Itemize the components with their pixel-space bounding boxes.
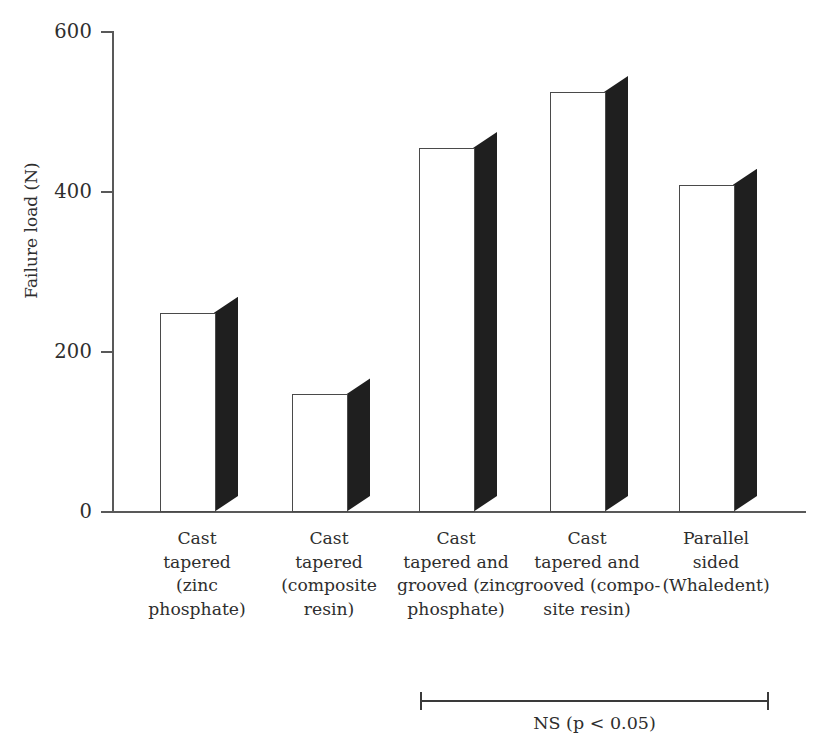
x-axis-category-label: Casttapered andgrooved (zincphosphate)	[381, 527, 531, 621]
x-axis-category-label-line: (Whaledent)	[641, 574, 791, 598]
x-axis-category-label-line: Cast	[512, 527, 662, 551]
y-axis-tick-label: 600	[34, 22, 92, 42]
x-axis-category-label-line: grooved (zinc	[381, 574, 531, 598]
y-axis-tick-label: 200	[34, 342, 92, 362]
x-axis-category-label-line: (zinc	[122, 574, 272, 598]
y-axis-line	[112, 31, 114, 513]
bar-side-panel	[604, 76, 628, 512]
bar-chart-figure: Failure load (N) 0200400600 Casttapered(…	[0, 0, 822, 745]
bar-group	[679, 0, 757, 512]
x-axis-category-label-line: sided	[641, 551, 791, 575]
x-axis-category-label-line: phosphate)	[381, 598, 531, 622]
x-axis-category-label-line: Cast	[122, 527, 272, 551]
x-axis-category-label-line: tapered and	[512, 551, 662, 575]
bar-side-panel	[733, 169, 757, 512]
x-axis-category-label-line: tapered and	[381, 551, 531, 575]
significance-label: NS (p < 0.05)	[420, 715, 769, 733]
bar-group	[550, 0, 628, 512]
significance-bracket-cap-left	[420, 692, 422, 710]
y-axis-tick-label-wrap: 600	[30, 22, 92, 42]
bar-face	[160, 313, 216, 512]
y-axis-tick-label: 0	[34, 502, 92, 522]
y-axis-tick	[101, 31, 113, 33]
x-axis-category-label-line: grooved (compo-	[512, 574, 662, 598]
x-axis-category-label: Parallelsided(Whaledent)	[641, 527, 791, 598]
x-axis-category-label-line: tapered	[122, 551, 272, 575]
significance-bracket	[420, 691, 769, 711]
y-axis-tick-label: 400	[34, 182, 92, 202]
x-axis-category-label-line: Parallel	[641, 527, 791, 551]
y-axis-tick	[101, 511, 113, 513]
bar-group	[419, 0, 497, 512]
x-axis-category-label-line: Cast	[381, 527, 531, 551]
significance-bracket-line	[420, 700, 769, 702]
bar-face	[419, 148, 475, 512]
y-axis-tick-label-wrap: 400	[30, 182, 92, 202]
bar-side-panel	[346, 378, 370, 512]
bar-side-panel	[473, 132, 497, 512]
bar-face	[679, 185, 735, 512]
x-axis-category-label: Casttapered andgrooved (compo-site resin…	[512, 527, 662, 621]
bar-side-panel	[214, 297, 238, 512]
x-axis-category-label-line: phosphate)	[122, 598, 272, 622]
bar-group	[160, 0, 238, 512]
bar-face	[292, 394, 348, 512]
y-axis-tick-label-wrap: 0	[30, 502, 92, 522]
x-axis-category-label-line: site resin)	[512, 598, 662, 622]
bar-group	[292, 0, 370, 512]
y-axis-tick	[101, 191, 113, 193]
y-axis-tick-label-wrap: 200	[30, 342, 92, 362]
y-axis-title: Failure load (N)	[23, 151, 40, 311]
significance-bracket-cap-right	[767, 692, 769, 710]
y-axis-tick	[101, 351, 113, 353]
x-axis-category-label: Casttapered(zincphosphate)	[122, 527, 272, 621]
bar-face	[550, 92, 606, 512]
